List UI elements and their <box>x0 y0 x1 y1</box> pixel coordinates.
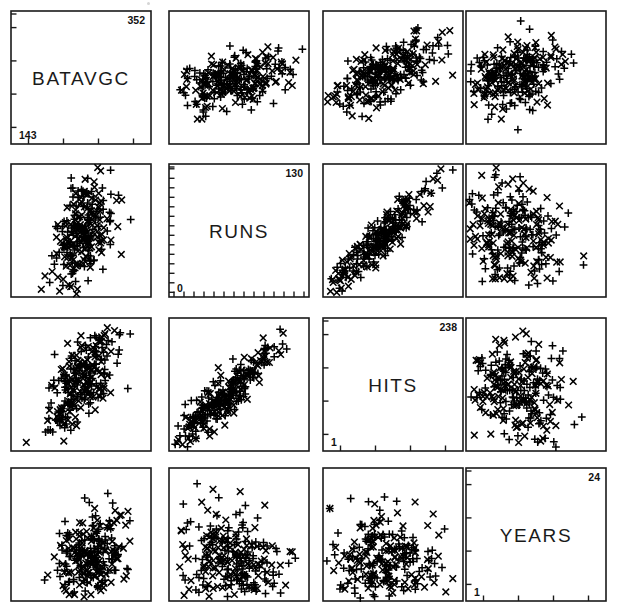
scatter-panel-years-vs-hits <box>465 317 607 452</box>
diagonal-panel-hits: 2381HITS <box>322 317 464 452</box>
scatter-panel-runs-vs-hits <box>168 317 310 452</box>
scan-artifact-speck <box>147 2 150 5</box>
axis-min-label-hits: 1 <box>331 436 337 448</box>
scatter-panel-hits-vs-runs <box>322 163 464 298</box>
scatter-panel-hits-vs-years <box>322 467 464 602</box>
scatter-panel-years-vs-batavgc <box>465 10 607 145</box>
axis-max-label-years: 24 <box>588 471 600 483</box>
axis-min-label-batavgc: 143 <box>19 129 37 141</box>
scatterplot-matrix: 352143BATAVGC1300RUNS2381HITS241YEARS <box>0 0 617 607</box>
axis-max-label-runs: 130 <box>285 167 303 179</box>
scatter-panel-batavgc-vs-runs <box>10 163 152 298</box>
variable-name-hits: HITS <box>368 375 418 396</box>
scatter-panel-batavgc-vs-hits <box>10 317 152 452</box>
axis-min-label-runs: 0 <box>177 282 183 294</box>
axis-max-label-hits: 238 <box>439 321 457 333</box>
variable-name-runs: RUNS <box>209 221 269 242</box>
axis-max-label-batavgc: 352 <box>127 14 145 26</box>
variable-name-batavgc: BATAVGC <box>32 68 130 89</box>
diagonal-panel-batavgc: 352143BATAVGC <box>10 10 152 145</box>
scatter-panel-batavgc-vs-years <box>10 467 152 602</box>
scatter-panel-runs-vs-years <box>168 467 310 602</box>
diagonal-panel-years: 241YEARS <box>465 467 607 602</box>
variable-name-years: YEARS <box>500 525 572 546</box>
scatter-panel-years-vs-runs <box>465 163 607 298</box>
diagonal-panel-runs: 1300RUNS <box>168 163 310 298</box>
scatter-panel-runs-vs-batavgc <box>168 10 310 145</box>
scatter-panel-hits-vs-batavgc <box>322 10 464 145</box>
axis-min-label-years: 1 <box>474 586 480 598</box>
